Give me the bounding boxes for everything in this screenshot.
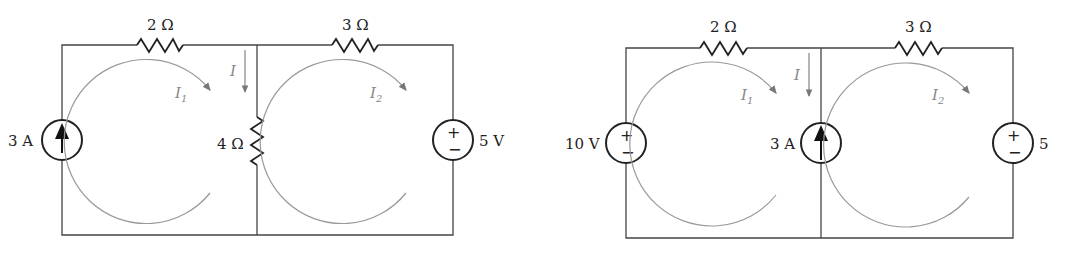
mesh-current-1-arrow-icon: [64, 59, 210, 223]
voltage-source-10v-icon: + −: [606, 123, 646, 163]
mesh-current-2-arrow-icon: [824, 63, 969, 227]
resistor-4-ohm-label: 4 Ω: [217, 135, 244, 153]
mesh-current-1-label: I1: [740, 86, 753, 106]
current-source-label: 3 A: [770, 135, 795, 153]
right-circuit: 2 Ω 3 Ω + − 10 V 3 A + − 5 I I1: [565, 18, 1049, 238]
mesh-current-2-label: I2: [369, 84, 382, 104]
voltage-source-label: 5 V: [479, 132, 505, 150]
resistor-3-ohm-icon: [895, 42, 942, 55]
resistor-2-ohm-label: 2 Ω: [147, 16, 174, 34]
resistor-2-ohm-icon: [700, 42, 747, 55]
svg-text:−: −: [1008, 143, 1021, 162]
voltage-source-10v-label: 10 V: [565, 135, 601, 153]
branch-current-label: I: [793, 66, 801, 84]
voltage-source-5v-icon: + −: [433, 120, 473, 160]
resistor-3-ohm-icon: [332, 39, 378, 52]
voltage-source-5-label: 5: [1039, 135, 1049, 153]
mesh-current-1-label: I1: [174, 84, 187, 104]
current-source-label: 3 A: [8, 132, 33, 150]
svg-text:−: −: [621, 143, 634, 162]
current-source-3a-icon: [801, 123, 841, 163]
resistor-2-ohm-icon: [137, 39, 183, 52]
voltage-source-5v-icon: + −: [993, 123, 1033, 163]
current-source-3a-icon: [42, 120, 82, 160]
svg-text:−: −: [448, 140, 461, 159]
circuit-diagrams: 2 Ω 3 Ω 4 Ω 3 A + − 5 V I I1 I2: [0, 0, 1080, 256]
resistor-3-ohm-label: 3 Ω: [905, 18, 932, 36]
mesh-current-2-label: I2: [931, 86, 944, 106]
mesh-current-2-arrow-icon: [260, 59, 406, 223]
left-circuit: 2 Ω 3 Ω 4 Ω 3 A + − 5 V I I1 I2: [8, 16, 505, 235]
resistor-3-ohm-label: 3 Ω: [342, 16, 369, 34]
resistor-2-ohm-label: 2 Ω: [710, 18, 737, 36]
mesh-current-1-arrow-icon: [630, 62, 776, 226]
branch-current-label: I: [229, 62, 237, 80]
